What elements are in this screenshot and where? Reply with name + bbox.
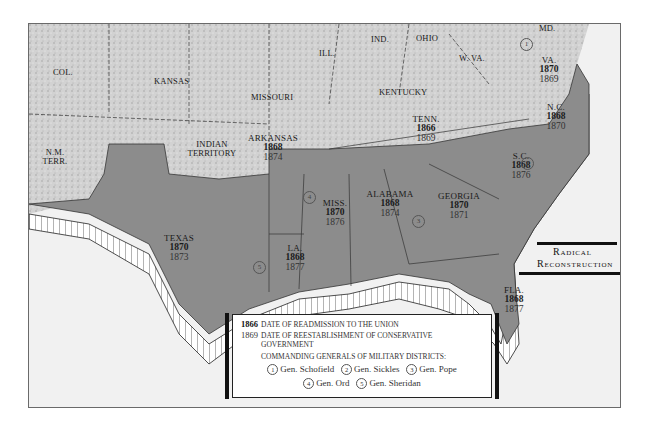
general-2-marker: 2 [341,364,352,375]
title-line-1: Radical [553,246,592,257]
district-marker-2: 2 [521,157,534,170]
general-1-marker: 1 [267,364,278,375]
title-rule-top [537,242,617,245]
general-5-name: Gen. Sheridan [369,378,421,388]
title-line-2: Reconstruction [537,258,613,269]
label-missouri: MISSOURI [251,93,293,102]
district-marker-3: 3 [412,215,425,228]
legend-conservative-2: GOVERNMENT [261,340,314,349]
general-1-name: Gen. Schofield [280,364,334,374]
label-ind: IND. [371,35,389,44]
district-marker-5: 5 [253,261,266,274]
state-va: VA. 1870 1869 [529,56,569,85]
state-nc: N.C. 1868 1870 [536,103,576,132]
legend-readmission: 1866DATE OF READMISSION TO THE UNION [241,319,399,329]
label-kentucky: KENTUCKY [379,88,427,97]
general-5-marker: 5 [356,378,367,389]
legend-generals-row-2: 4Gen. Ord 5Gen. Sheridan [233,378,491,389]
state-arkansas: ARKANSAS 1868 1874 [243,134,303,163]
legend-generals-row-1: 1Gen. Schofield 2Gen. Sickles 3Gen. Pope [233,364,491,375]
label-col: COL. [53,68,73,77]
state-georgia: GEORGIA 1870 1871 [429,192,489,221]
district-marker-1: 1 [520,38,533,51]
general-2-name: Gen. Sickles [354,364,400,374]
label-indian-territory: INDIAN TERRITORY [177,140,247,158]
label-md: MD. [539,24,555,33]
legend-bar-left [225,313,229,399]
title-rule-bottom [519,272,621,275]
label-kansas: KANSAS [154,77,189,86]
state-la: LA. 1868 1877 [275,244,315,273]
general-4-name: Gen. Ord [316,378,350,388]
label-ohio: OHIO [416,34,438,43]
state-texas: TEXAS 1870 1873 [149,234,209,263]
general-3-marker: 3 [406,364,417,375]
state-alabama: ALABAMA 1868 1874 [360,190,420,219]
legend-generals-heading: COMMANDING GENERALS OF MILITARY DISTRICT… [261,352,446,361]
label-wva: W. VA. [459,54,485,63]
label-ill: ILL. [319,49,335,58]
general-4-marker: 4 [303,378,314,389]
label-nm-terr: N.M. TERR. [35,148,75,166]
state-miss: MISS. 1870 1876 [315,199,355,228]
legend-bar-right [495,313,499,399]
legend-conservative: 1869DATE OF REESTABLISHMENT OF CONSERVAT… [241,330,432,340]
map-legend: 1866DATE OF READMISSION TO THE UNION 186… [232,314,492,398]
state-fla: FLA. 1868 1877 [494,286,534,315]
general-3-name: Gen. Pope [419,364,457,374]
map-title: Radical Reconstruction [529,242,621,282]
district-marker-4: 4 [303,191,316,204]
state-tenn: TENN. 1866 1869 [406,115,446,144]
